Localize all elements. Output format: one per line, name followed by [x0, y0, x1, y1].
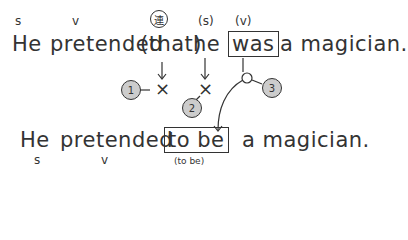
label2-s: s	[34, 153, 40, 167]
callout-1: 1	[121, 80, 141, 100]
word2-pretended: pretended	[60, 128, 173, 152]
to-be-note: (to be)	[174, 156, 204, 166]
word2-rest: a magician.	[242, 128, 370, 152]
word2-he: He	[20, 128, 50, 152]
cross-mark-2: ×	[198, 78, 214, 99]
label2-v: v	[101, 153, 108, 167]
word2-to-be-boxed: to be	[164, 127, 229, 153]
cross-mark-1: ×	[155, 78, 171, 99]
callout-2: 2	[182, 98, 202, 118]
callout-3: 3	[262, 78, 282, 98]
